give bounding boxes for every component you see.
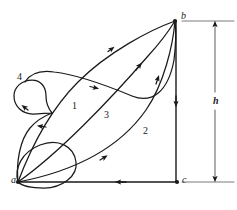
curve-path-3-arrow	[136, 65, 140, 70]
path-label-3: 3	[104, 110, 109, 120]
curve-path-4-sweep	[25, 21, 176, 98]
curve-lower-lobe	[17, 142, 76, 188]
vertex-c-dot	[175, 180, 179, 184]
curve-path-2	[18, 21, 175, 182]
curve-path-2-arrow	[156, 78, 158, 84]
vertex-label-b: b	[181, 11, 186, 21]
path-label-1: 1	[72, 101, 77, 111]
curve-path-4-arrow-return	[40, 126, 46, 127]
height-dimension-label: h	[211, 95, 221, 107]
curve-path-4-loop	[14, 80, 52, 114]
curve-path-1-arrow	[108, 49, 112, 52]
path-label-4: 4	[17, 72, 22, 82]
vertex-label-c: c	[182, 175, 186, 185]
vertex-label-a: a	[11, 175, 16, 185]
curve-path-2-arrow-lower	[100, 157, 105, 160]
diagram-canvas	[0, 0, 237, 210]
vertex-b-dot	[173, 19, 177, 23]
vertex-a-dot	[16, 180, 20, 184]
path-label-2: 2	[143, 126, 148, 136]
curve-path-4-loop-arrow	[24, 107, 28, 110]
curve-path-4-arrow	[90, 87, 96, 89]
figure-container: a b c 1 2 3 4 h	[0, 0, 237, 210]
